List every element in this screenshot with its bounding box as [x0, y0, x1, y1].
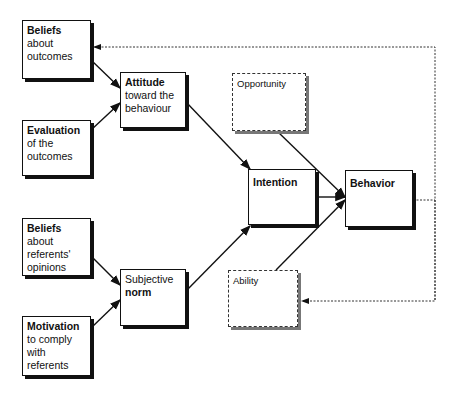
node-text: Ability: [233, 274, 293, 287]
node-text: to comply: [27, 333, 86, 346]
node-text: outcomes: [27, 50, 86, 63]
node-text: referents': [27, 248, 86, 261]
node-title: Evaluation: [27, 124, 86, 137]
node-text: toward the: [125, 89, 181, 102]
node-text: outcomes: [27, 150, 86, 163]
node-motivation: Motivation to comply with referents: [22, 316, 91, 376]
node-title: norm: [125, 286, 181, 299]
node-text: opinions: [27, 261, 86, 274]
node-title: Intention: [253, 176, 311, 189]
node-text: about: [27, 37, 86, 50]
node-title: Attitude: [125, 76, 181, 89]
node-text: of the: [27, 137, 86, 150]
node-text: behaviour: [125, 102, 181, 115]
node-opportunity: Opportunity: [232, 73, 306, 131]
node-title: Beliefs: [27, 222, 86, 235]
node-beliefs-outcomes: Beliefs about outcomes: [22, 20, 91, 79]
node-text: Subjective: [125, 273, 181, 286]
node-subjective-norm: Subjective norm: [120, 269, 186, 326]
node-evaluation: Evaluation of the outcomes: [22, 120, 91, 176]
node-ability: Ability: [228, 270, 298, 327]
node-title: Behavior: [350, 177, 408, 190]
node-beliefs-referents: Beliefs about referents' opinions: [22, 218, 91, 276]
node-text: Opportunity: [237, 77, 301, 90]
node-text: with: [27, 346, 86, 359]
node-title: Motivation: [27, 320, 86, 333]
node-behavior: Behavior: [345, 170, 413, 227]
node-text: referents: [27, 359, 86, 372]
node-attitude: Attitude toward the behaviour: [120, 72, 186, 128]
node-title: Beliefs: [27, 24, 86, 37]
node-intention: Intention: [248, 169, 316, 225]
node-text: about: [27, 235, 86, 248]
